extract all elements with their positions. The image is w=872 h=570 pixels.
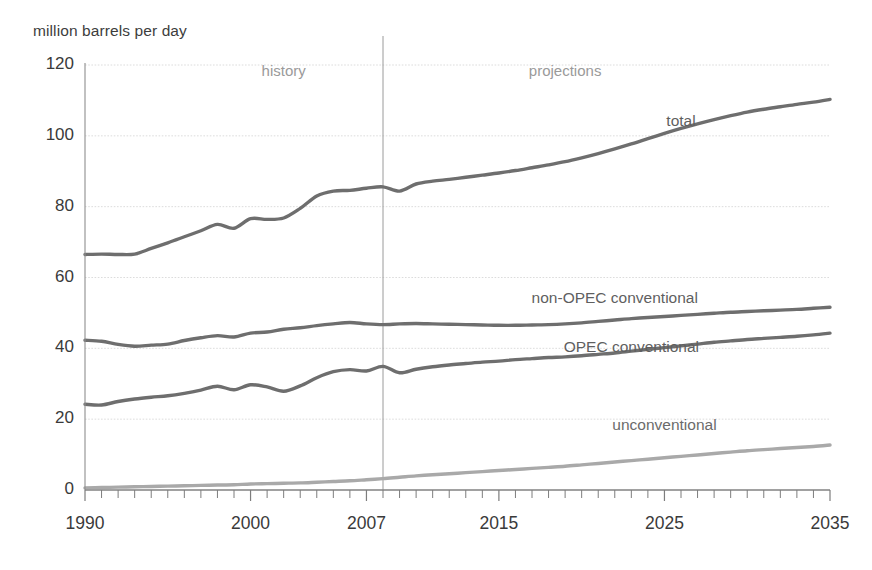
- x-tick-label-2015: 2015: [464, 513, 534, 534]
- chart-canvas: [0, 0, 872, 570]
- series-line-unconventional: [85, 445, 830, 488]
- y-tick-label-0: 0: [16, 479, 74, 499]
- y-tick-label-20: 20: [16, 408, 74, 428]
- y-tick-label-120: 120: [16, 54, 74, 74]
- series-label-total: total: [666, 112, 695, 130]
- x-tick-label-2000: 2000: [216, 513, 286, 534]
- y-tick-label-80: 80: [16, 196, 74, 216]
- axis-lines-group: [85, 63, 830, 490]
- x-axis-ticks-group: [85, 490, 830, 501]
- y-tick-label-100: 100: [16, 125, 74, 145]
- series-line-opec-conventional: [85, 333, 830, 405]
- annotation-history: history: [262, 62, 306, 79]
- y-tick-label-40: 40: [16, 337, 74, 357]
- annotation-projections: projections: [529, 62, 602, 79]
- gridlines-group: [85, 65, 830, 490]
- x-tick-label-2035: 2035: [795, 513, 865, 534]
- x-tick-label-2007: 2007: [331, 513, 401, 534]
- x-tick-label-1990: 1990: [50, 513, 120, 534]
- y-axis-title: million barrels per day: [33, 22, 187, 40]
- series-label-opec-conventional: OPEC conventional: [564, 338, 699, 356]
- y-tick-label-60: 60: [16, 267, 74, 287]
- series-label-unconventional: unconventional: [612, 416, 716, 434]
- series-lines-group: [85, 99, 830, 488]
- chart-container: million barrels per day 020406080100120 …: [0, 0, 872, 570]
- x-tick-label-2025: 2025: [629, 513, 699, 534]
- series-line-total: [85, 99, 830, 254]
- series-label-non-opec-conventional: non-OPEC conventional: [532, 289, 698, 307]
